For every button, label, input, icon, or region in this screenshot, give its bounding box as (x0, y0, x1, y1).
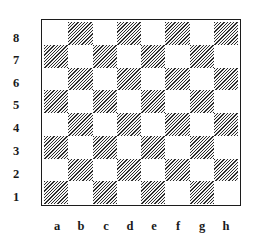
square-d3 (117, 136, 141, 159)
square-b7 (68, 45, 92, 68)
square-g1 (190, 181, 214, 204)
square-e6 (141, 68, 165, 91)
square-b1 (68, 181, 92, 204)
square-c3 (93, 136, 117, 159)
rank-label-4: 4 (9, 121, 23, 135)
rank-label-6: 6 (9, 76, 23, 90)
square-f5 (165, 90, 189, 113)
rank-label-7: 7 (9, 53, 23, 67)
square-h2 (214, 159, 238, 182)
square-f8 (165, 22, 189, 45)
rank-label-5: 5 (9, 98, 23, 112)
square-f4 (165, 113, 189, 136)
square-e3 (141, 136, 165, 159)
square-g6 (190, 68, 214, 91)
square-d6 (117, 68, 141, 91)
square-h5 (214, 90, 238, 113)
square-c2 (93, 159, 117, 182)
square-b4 (68, 113, 92, 136)
square-c5 (93, 90, 117, 113)
square-h1 (214, 181, 238, 204)
square-c4 (93, 113, 117, 136)
file-label-g: g (195, 219, 209, 233)
square-b2 (68, 159, 92, 182)
file-label-d: d (123, 219, 137, 233)
square-f3 (165, 136, 189, 159)
square-d8 (117, 22, 141, 45)
square-c7 (93, 45, 117, 68)
square-b6 (68, 68, 92, 91)
square-d2 (117, 159, 141, 182)
square-f2 (165, 159, 189, 182)
square-e4 (141, 113, 165, 136)
square-e7 (141, 45, 165, 68)
rank-label-8: 8 (9, 31, 23, 45)
square-g7 (190, 45, 214, 68)
square-g5 (190, 90, 214, 113)
square-a1 (44, 181, 68, 204)
file-label-c: c (99, 219, 113, 233)
square-c8 (93, 22, 117, 45)
file-label-a: a (50, 219, 64, 233)
square-g4 (190, 113, 214, 136)
square-h4 (214, 113, 238, 136)
square-d7 (117, 45, 141, 68)
square-c1 (93, 181, 117, 204)
square-a3 (44, 136, 68, 159)
square-a4 (44, 113, 68, 136)
square-g3 (190, 136, 214, 159)
rank-label-3: 3 (9, 144, 23, 158)
square-a2 (44, 159, 68, 182)
square-e5 (141, 90, 165, 113)
rank-label-2: 2 (9, 167, 23, 181)
square-h8 (214, 22, 238, 45)
square-g2 (190, 159, 214, 182)
file-label-f: f (171, 219, 185, 233)
square-f6 (165, 68, 189, 91)
square-a5 (44, 90, 68, 113)
square-a8 (44, 22, 68, 45)
square-a7 (44, 45, 68, 68)
square-b8 (68, 22, 92, 45)
square-d5 (117, 90, 141, 113)
square-h3 (214, 136, 238, 159)
square-a6 (44, 68, 68, 91)
file-label-e: e (147, 219, 161, 233)
square-f7 (165, 45, 189, 68)
chessboard (44, 22, 238, 204)
square-c6 (93, 68, 117, 91)
square-g8 (190, 22, 214, 45)
square-h6 (214, 68, 238, 91)
square-d4 (117, 113, 141, 136)
square-d1 (117, 181, 141, 204)
square-e8 (141, 22, 165, 45)
square-f1 (165, 181, 189, 204)
square-h7 (214, 45, 238, 68)
file-label-b: b (74, 219, 88, 233)
rank-label-1: 1 (9, 190, 23, 204)
square-b3 (68, 136, 92, 159)
square-b5 (68, 90, 92, 113)
square-e1 (141, 181, 165, 204)
file-label-h: h (219, 219, 233, 233)
square-e2 (141, 159, 165, 182)
